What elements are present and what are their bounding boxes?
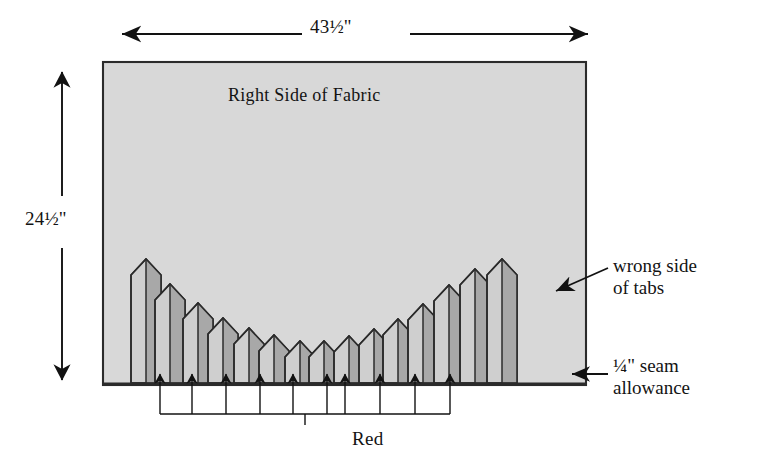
wrong-side-line-2: of tabs [613,277,697,299]
fabric-tab [155,284,185,383]
red-fabric-label: Red [352,428,384,450]
wrong-side-of-tabs-label: wrong side of tabs [613,255,697,300]
seam-line-1: ¼" seam [613,355,690,377]
sewing-diagram: 43½" 24½" Right Side of Fabric wrong sid… [0,0,765,472]
fabric-tab [487,259,517,383]
fabric-tab [460,269,490,383]
seam-allowance-label: ¼" seam allowance [613,355,690,400]
width-dimension-label: 43½" [310,16,352,38]
diagram-canvas [0,0,765,472]
seam-line-2: allowance [613,377,690,399]
height-dimension-label: 24½" [25,208,67,230]
tab-wrong-side-half [502,259,517,383]
fabric-title-label: Right Side of Fabric [228,85,381,106]
wrong-side-line-1: wrong side [613,255,697,277]
